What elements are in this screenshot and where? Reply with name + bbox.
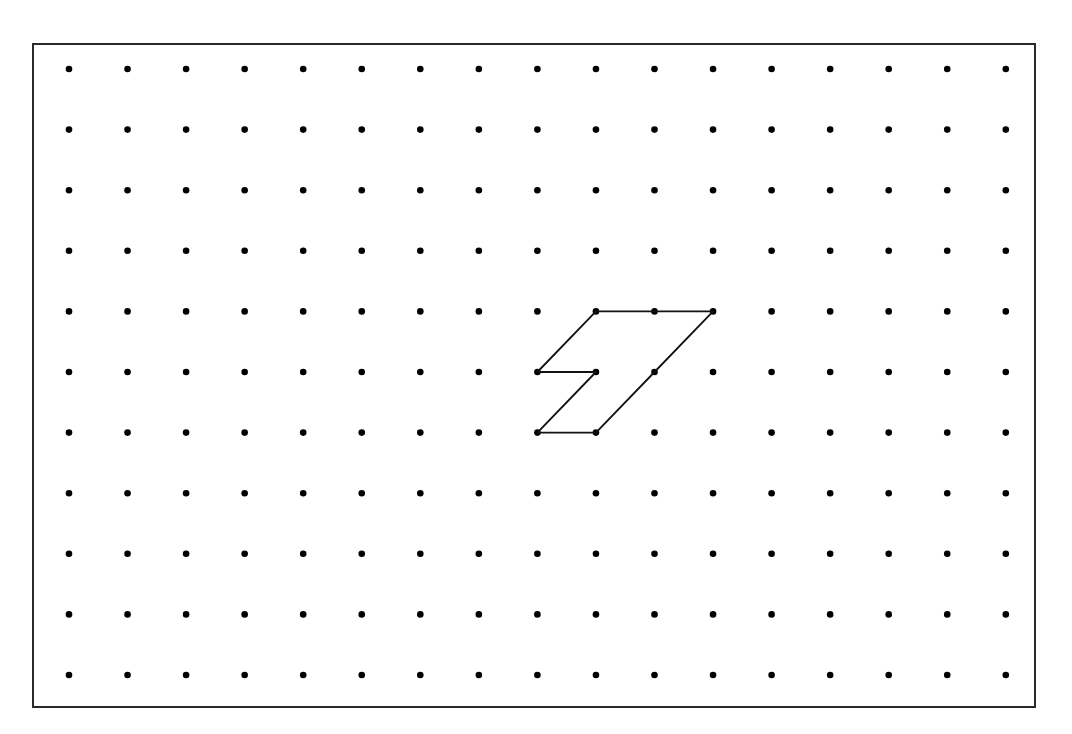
grid-dot bbox=[827, 429, 834, 436]
grid-dot bbox=[885, 308, 892, 315]
grid-dot bbox=[66, 429, 73, 436]
grid-dot bbox=[710, 672, 717, 679]
grid-dot bbox=[710, 551, 717, 558]
grid-dot bbox=[768, 369, 775, 376]
grid-dot bbox=[183, 308, 190, 315]
grid-dot bbox=[124, 308, 131, 315]
dot-grid-canvas bbox=[0, 0, 1072, 734]
grid-dot bbox=[768, 187, 775, 194]
grid-dot bbox=[944, 490, 951, 497]
grid-dot bbox=[300, 672, 307, 679]
grid-dot bbox=[1003, 611, 1010, 618]
grid-dot bbox=[358, 187, 365, 194]
grid-dot bbox=[944, 187, 951, 194]
grid-dot bbox=[1003, 672, 1010, 679]
grid-dot bbox=[944, 248, 951, 255]
grid-dot bbox=[651, 126, 658, 133]
grid-dot bbox=[241, 66, 248, 73]
grid-dot bbox=[417, 187, 424, 194]
grid-dot bbox=[534, 490, 541, 497]
grid-dot bbox=[300, 248, 307, 255]
grid-dot bbox=[534, 672, 541, 679]
grid-dot bbox=[651, 611, 658, 618]
grid-dot bbox=[710, 611, 717, 618]
grid-dot bbox=[66, 672, 73, 679]
grid-dot bbox=[476, 187, 483, 194]
grid-dot bbox=[66, 187, 73, 194]
grid-dot bbox=[241, 187, 248, 194]
grid-dot bbox=[417, 369, 424, 376]
polygon-shape bbox=[537, 311, 713, 432]
grid-dot bbox=[476, 490, 483, 497]
grid-dot bbox=[300, 187, 307, 194]
grid-dot bbox=[417, 672, 424, 679]
grid-dot bbox=[241, 308, 248, 315]
grid-dot bbox=[66, 66, 73, 73]
grid-dot bbox=[944, 308, 951, 315]
grid-dot bbox=[885, 369, 892, 376]
grid-dot bbox=[534, 308, 541, 315]
grid-dot bbox=[183, 611, 190, 618]
grid-dot bbox=[534, 611, 541, 618]
grid-dot bbox=[710, 126, 717, 133]
grid-dot bbox=[768, 66, 775, 73]
grid-dot bbox=[593, 66, 600, 73]
grid-dot bbox=[1003, 429, 1010, 436]
grid-dot bbox=[1003, 308, 1010, 315]
grid-dot bbox=[358, 126, 365, 133]
grid-dot bbox=[300, 429, 307, 436]
grid-dot bbox=[1003, 248, 1010, 255]
grid-dot bbox=[241, 551, 248, 558]
grid-dot bbox=[1003, 126, 1010, 133]
grid-dot bbox=[768, 248, 775, 255]
grid-dot bbox=[124, 672, 131, 679]
grid-dot bbox=[124, 248, 131, 255]
grid-dot bbox=[66, 611, 73, 618]
grid-dot bbox=[944, 66, 951, 73]
grid-dot bbox=[827, 490, 834, 497]
grid-dot bbox=[241, 248, 248, 255]
grid-dot bbox=[710, 429, 717, 436]
grid-dot bbox=[768, 551, 775, 558]
grid-dot bbox=[885, 248, 892, 255]
grid-dot bbox=[593, 611, 600, 618]
grid-dot bbox=[768, 490, 775, 497]
grid-dot bbox=[183, 66, 190, 73]
grid-dot bbox=[66, 551, 73, 558]
grid-dot bbox=[768, 308, 775, 315]
grid-dot bbox=[241, 490, 248, 497]
grid-dot bbox=[476, 611, 483, 618]
grid-dot bbox=[241, 429, 248, 436]
grid-dot bbox=[300, 66, 307, 73]
grid-dot bbox=[768, 429, 775, 436]
grid-dot bbox=[827, 66, 834, 73]
grid-dot bbox=[417, 551, 424, 558]
grid-dot bbox=[651, 672, 658, 679]
grid-dot bbox=[710, 66, 717, 73]
grid-dot bbox=[124, 611, 131, 618]
grid-dot bbox=[768, 611, 775, 618]
grid-dot bbox=[885, 187, 892, 194]
grid-dot bbox=[358, 672, 365, 679]
grid-dot bbox=[124, 187, 131, 194]
grid-dot bbox=[358, 248, 365, 255]
grid-dot bbox=[183, 187, 190, 194]
grid-dot bbox=[476, 672, 483, 679]
grid-dot bbox=[241, 126, 248, 133]
grid-dot bbox=[358, 369, 365, 376]
grid-dot bbox=[827, 611, 834, 618]
grid-dot bbox=[1003, 187, 1010, 194]
grid-dot bbox=[183, 429, 190, 436]
grid-dot bbox=[417, 611, 424, 618]
grid-dot bbox=[183, 126, 190, 133]
grid-dot bbox=[1003, 369, 1010, 376]
grid-dot bbox=[534, 248, 541, 255]
grid-dot bbox=[593, 248, 600, 255]
grid-dot bbox=[944, 551, 951, 558]
grid-dot bbox=[300, 369, 307, 376]
grid-dot bbox=[885, 490, 892, 497]
grid-dot bbox=[827, 551, 834, 558]
grid-dot bbox=[593, 490, 600, 497]
grid-dot bbox=[358, 66, 365, 73]
grid-dot bbox=[885, 672, 892, 679]
